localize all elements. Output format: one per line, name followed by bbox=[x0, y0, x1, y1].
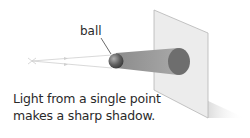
caption-line-1: Light from a single point bbox=[13, 90, 161, 107]
ball bbox=[109, 54, 124, 69]
ray-arrows bbox=[64, 57, 68, 66]
caption-line-2: makes a sharp shadow. bbox=[13, 107, 161, 124]
caption: Light from a single point makes a sharp … bbox=[13, 90, 161, 124]
light-rays bbox=[28, 55, 112, 68]
shadow-spot bbox=[168, 48, 190, 75]
floor-shadow bbox=[206, 100, 245, 118]
ball-leader-line bbox=[101, 38, 111, 54]
ball-label: ball bbox=[80, 24, 102, 38]
